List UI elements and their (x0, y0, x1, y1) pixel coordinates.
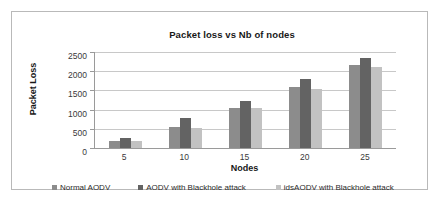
bar[interactable] (180, 118, 191, 148)
x-axis-label: Nodes (94, 163, 395, 173)
bar[interactable] (251, 108, 262, 148)
y-tick-label: 1000 (47, 110, 87, 119)
bar[interactable] (229, 108, 240, 148)
bar[interactable] (131, 141, 142, 148)
figure-canvas: Packet loss vs Nb of nodes Packet Loss 0… (0, 0, 443, 204)
legend-swatch-icon (52, 185, 57, 190)
y-tick-label: 500 (47, 129, 87, 138)
bar-group (155, 52, 215, 148)
bar[interactable] (360, 58, 371, 148)
bar[interactable] (240, 101, 251, 148)
legend-item[interactable]: AODV with Blackhole attack (138, 183, 246, 192)
y-tick-label: 0 (47, 148, 87, 157)
legend-label: AODV with Blackhole attack (146, 183, 246, 192)
bar[interactable] (169, 127, 180, 149)
y-axis-tick-labels: 05001000150020002500 (50, 48, 91, 152)
chart-frame: Packet loss vs Nb of nodes Packet Loss 0… (11, 11, 428, 190)
legend-swatch-icon (276, 185, 281, 190)
bar[interactable] (120, 138, 131, 148)
y-axis-label: Packet Loss (28, 49, 38, 129)
bar[interactable] (349, 65, 360, 148)
legend-item[interactable]: Normal AODV (52, 183, 110, 192)
chart-legend: Normal AODVAODV with Blackhole attackids… (36, 181, 431, 193)
bar-groups (95, 52, 396, 148)
legend-item[interactable]: idsAODV with Blackhole attack (276, 183, 394, 192)
bar-group (276, 52, 336, 148)
y-tick-label: 1500 (47, 90, 87, 99)
bar[interactable] (311, 89, 322, 148)
chart-title: Packet loss vs Nb of nodes (82, 29, 382, 40)
y-tick-label: 2000 (47, 71, 87, 80)
bar[interactable] (371, 67, 382, 148)
bar-group (336, 52, 396, 148)
legend-label: idsAODV with Blackhole attack (284, 183, 394, 192)
plot-area (94, 52, 396, 149)
bar-group (95, 52, 155, 148)
bar[interactable] (191, 128, 202, 148)
bar[interactable] (300, 79, 311, 148)
bar-group (215, 52, 275, 148)
bar[interactable] (109, 141, 120, 148)
bar[interactable] (289, 87, 300, 148)
y-tick-label: 2500 (47, 52, 87, 61)
legend-swatch-icon (138, 185, 143, 190)
legend-label: Normal AODV (60, 183, 110, 192)
